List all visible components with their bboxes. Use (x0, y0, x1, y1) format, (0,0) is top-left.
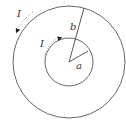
radius-b-line (69, 8, 84, 62)
diagram-canvas: I I b a (0, 0, 126, 124)
radius-a-label: a (76, 60, 82, 71)
radius-b-label: b (70, 21, 76, 32)
outer-current-label: I (16, 8, 22, 19)
inner-current-label: I (39, 38, 45, 49)
coaxial-diagram: I I b a (0, 0, 126, 124)
